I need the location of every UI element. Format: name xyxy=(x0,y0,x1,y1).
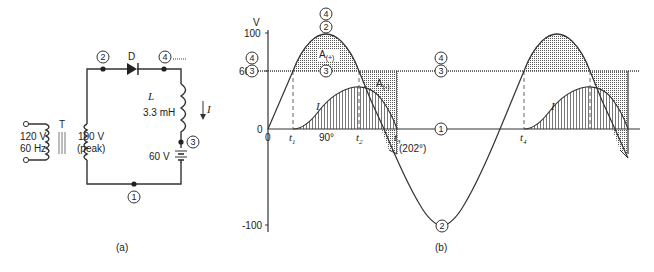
y-tick-neg100: -100 xyxy=(242,220,262,231)
circuit-diagram: T 120 V 60 Hz 100 V (peak) D L 3.3 mH xyxy=(20,51,212,253)
marker-right-3: 3 xyxy=(435,65,447,77)
marker-zero-1: 1 xyxy=(435,123,447,135)
svg-text:1: 1 xyxy=(438,124,443,134)
primary-winding xyxy=(23,121,49,162)
svg-text:3: 3 xyxy=(323,66,328,76)
node-badge-2: 2 xyxy=(97,51,109,63)
inductor-value: 3.3 mH xyxy=(143,107,175,118)
marker-peak-2: 2 xyxy=(320,21,332,33)
diode-label: D xyxy=(128,51,135,62)
svg-text:2: 2 xyxy=(439,221,444,231)
svg-text:3: 3 xyxy=(249,66,254,76)
inductor-symbol-label: L xyxy=(147,90,154,102)
t2-label: t2 xyxy=(356,131,363,146)
svg-text:1: 1 xyxy=(131,192,136,202)
charging-ramp xyxy=(268,71,293,129)
node-badge-4: 4 xyxy=(159,51,186,63)
svg-text:4: 4 xyxy=(162,52,167,62)
current-label: I xyxy=(206,103,212,115)
node-badge-3: 3 xyxy=(187,136,199,148)
wire-top-left xyxy=(87,69,127,124)
primary-frequency: 60 Hz xyxy=(20,143,46,154)
node-badge-1: 1 xyxy=(128,191,140,203)
svg-text:4: 4 xyxy=(323,9,328,19)
battery-symbol xyxy=(175,151,187,163)
node-dot-4 xyxy=(161,66,166,71)
marker-peak-4: 4 xyxy=(320,8,332,20)
transformer-core xyxy=(59,132,65,154)
battery-value: 60 V xyxy=(149,151,170,162)
wire-top-right xyxy=(137,69,181,84)
svg-text:2: 2 xyxy=(323,22,328,32)
marker-right-4: 4 xyxy=(435,52,447,64)
primary-voltage: 120 V xyxy=(20,131,46,142)
node-dot-1 xyxy=(131,181,136,186)
marker-trough-2: 2 xyxy=(436,220,448,232)
y-tick-0: 0 xyxy=(257,124,263,135)
node-dot-2 xyxy=(100,66,105,71)
y-axis-label: V xyxy=(253,17,260,28)
current-arrow-icon xyxy=(200,101,206,120)
secondary-winding xyxy=(84,124,87,160)
t3-angle-label: (202°) xyxy=(399,143,426,154)
svg-text:2: 2 xyxy=(100,52,105,62)
deg90-label: 90° xyxy=(319,132,334,143)
t4-label: t4 xyxy=(520,131,527,146)
node-dot-3 xyxy=(178,139,183,144)
area-positive-2 xyxy=(524,34,590,71)
marker-left-4: 4 xyxy=(246,52,258,64)
secondary-voltage: 100 V xyxy=(78,131,104,142)
diode-symbol xyxy=(127,63,138,75)
waveform-graph: V 100 60 0 -100 0 t1 90° t2 t3 (202°) t4… xyxy=(239,8,640,253)
inductor-symbol xyxy=(181,84,186,148)
wire-bottom xyxy=(87,160,181,184)
svg-text:4: 4 xyxy=(249,53,254,63)
t1-label: t1 xyxy=(289,131,296,146)
marker-mid-3: 3 xyxy=(320,65,332,77)
figure: T 120 V 60 Hz 100 V (peak) D L 3.3 mH xyxy=(0,0,654,272)
svg-text:3: 3 xyxy=(190,137,195,147)
caption-a: (a) xyxy=(116,242,128,253)
secondary-note: (peak) xyxy=(77,143,105,154)
transformer-label: T xyxy=(59,119,65,130)
area-positive-label: A(+) xyxy=(318,49,340,62)
svg-text:3: 3 xyxy=(438,66,443,76)
x-origin-label: 0 xyxy=(265,132,271,143)
y-tick-100: 100 xyxy=(244,28,261,39)
svg-text:4: 4 xyxy=(438,53,443,63)
marker-left-3: 3 xyxy=(246,65,258,77)
caption-b: (b) xyxy=(435,242,447,253)
